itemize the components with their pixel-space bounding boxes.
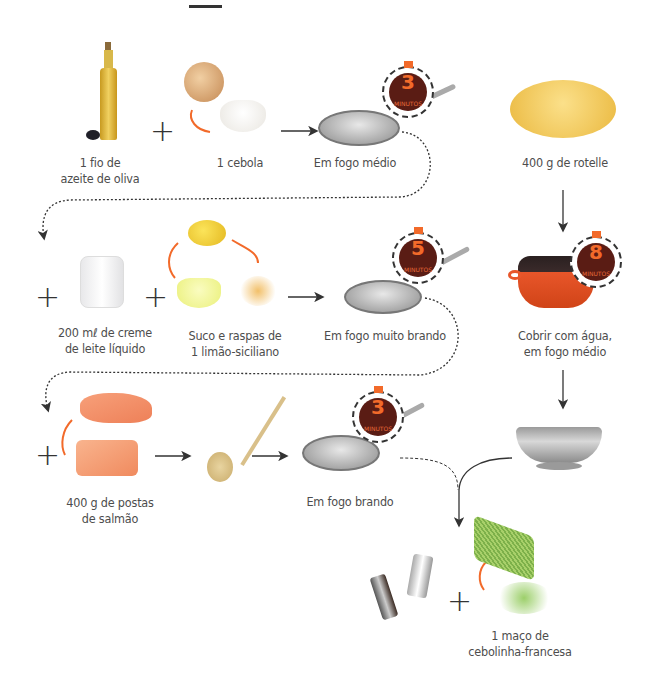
plus-operator: + [35,440,60,470]
olive-oil-bottle-icon [98,42,120,142]
salmon-cubes-icon [76,440,138,476]
timer-badge: 3 MINUTOS [382,66,434,118]
label-pasta: 400 g de rotelle [505,155,625,171]
label-cream: 200 mℓ de cremede leite líquido [40,325,170,357]
salmon-fillet-icon [80,393,152,423]
label-onion: 1 cebola [190,155,290,171]
timer-unit: MINUTOS [392,266,444,273]
timer-value: 3 [352,397,404,417]
label-oil: 1 fio deazeite de oliva [40,155,160,187]
plus-operator: + [35,282,60,312]
rotelle-pasta-icon [510,80,616,138]
frying-pan-icon [344,280,422,314]
label-pan1: Em fogo médio [300,155,410,171]
timer-badge: 3 MINUTOS [352,391,404,443]
chopped-onion-bowl-icon [220,100,266,132]
lemon-icon [188,220,226,246]
cream-jar-icon [80,256,124,308]
plus-operator: + [447,586,472,616]
spoon-bowl [207,452,233,482]
chopped-chives-icon [496,582,552,614]
pot-handle [508,270,522,280]
timer-value: 8 [570,242,622,262]
colander-base [536,462,582,470]
lemon-juice-bowl-icon [177,278,221,308]
label-salmon: 400 g de postasde salmão [55,495,165,527]
timer-unit: MINUTOS [352,425,404,432]
timer-value: 5 [392,238,444,258]
timer-unit: MINUTOS [382,100,434,107]
label-lemon: Suco e raspas de1 limão-siciliano [170,328,300,360]
label-chives: 1 maço decebolinha-francesa [455,628,585,660]
plus-operator: + [143,282,168,312]
plus-operator: + [150,116,175,146]
lemon-zest-icon [240,276,276,306]
timer-badge: 8 MINUTOS [570,236,622,288]
timer-unit: MINUTOS [570,270,622,277]
onion-icon [184,62,224,102]
timer-badge: 5 MINUTOS [392,232,444,284]
timer-value: 3 [382,72,434,92]
label-pot: Cobrir com água,em fogo médio [500,328,630,360]
label-pan3: Em fogo brando [295,494,405,510]
label-pan2: Em fogo muito brando [315,328,455,344]
